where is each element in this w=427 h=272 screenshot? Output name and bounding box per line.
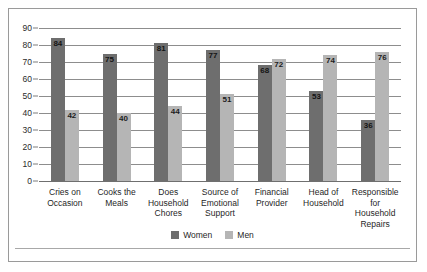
bar-men[interactable]: 44	[168, 106, 182, 181]
bar-men[interactable]: 40	[117, 113, 131, 181]
y-axis-tick-mark	[33, 181, 38, 182]
legend-divider	[15, 248, 410, 249]
y-axis-tick-label: 30	[23, 126, 32, 135]
bar-group: 8144DoesHouseholdChores	[154, 28, 182, 181]
y-axis-tick-label: 20	[23, 143, 32, 152]
bar-value-label: 72	[272, 61, 286, 69]
chart-legend: WomenMen	[9, 231, 416, 240]
bar-group: 7540Cooks theMeals	[103, 28, 131, 181]
legend-swatch-men	[225, 231, 233, 239]
y-axis-tick-mark	[33, 164, 38, 165]
y-axis-tick-label: 40	[23, 109, 32, 118]
bar-group: 7751Source ofEmotionalSupport	[206, 28, 234, 181]
y-axis-tick-mark	[33, 79, 38, 80]
bar-value-label: 68	[258, 67, 272, 75]
x-axis-category-label: ResponsibleforHouseholdRepairs	[338, 187, 412, 229]
bar-value-label: 53	[309, 93, 323, 101]
bar-men[interactable]: 74	[323, 55, 337, 181]
y-axis-tick-label: 50	[23, 92, 32, 101]
y-axis-tick-mark	[33, 130, 38, 131]
bar-value-label: 76	[375, 54, 389, 62]
y-axis-tick-label: 70	[23, 58, 32, 67]
legend-label: Women	[183, 231, 212, 240]
bar-value-label: 42	[65, 112, 79, 120]
bar-value-label: 77	[206, 52, 220, 60]
bar-women[interactable]: 84	[51, 38, 65, 181]
bar-value-label: 40	[117, 115, 131, 123]
legend-entry-women[interactable]: Women	[171, 231, 212, 240]
y-axis-tick-label: 60	[23, 75, 32, 84]
y-axis-tick-mark	[33, 45, 38, 46]
bar-women[interactable]: 36	[361, 120, 375, 181]
plot-area: 90807060504030201008442Cries onOccasion7…	[39, 28, 401, 181]
bar-men[interactable]: 51	[220, 94, 234, 181]
bar-value-label: 44	[168, 108, 182, 116]
legend-label: Men	[237, 231, 254, 240]
bar-women[interactable]: 53	[309, 91, 323, 181]
y-axis-tick-mark	[33, 147, 38, 148]
y-axis-tick-mark	[33, 113, 38, 114]
bar-value-label: 51	[220, 96, 234, 104]
legend-entry-men[interactable]: Men	[225, 231, 254, 240]
bar-group: 6872FinancialProvider	[258, 28, 286, 181]
bar-women[interactable]: 77	[206, 50, 220, 181]
bar-group: 8442Cries onOccasion	[51, 28, 79, 181]
bar-value-label: 84	[51, 40, 65, 48]
bar-women[interactable]: 75	[103, 54, 117, 182]
y-axis-tick-label: 10	[23, 160, 32, 169]
bar-men[interactable]: 72	[272, 59, 286, 181]
bar-men[interactable]: 42	[65, 110, 79, 181]
gridline-0	[39, 181, 401, 182]
y-axis-tick-mark	[33, 62, 38, 63]
y-axis-tick-mark	[33, 96, 38, 97]
legend-swatch-women	[171, 231, 179, 239]
bar-women[interactable]: 81	[154, 43, 168, 181]
bar-value-label: 74	[323, 57, 337, 65]
y-axis-tick-label: 90	[23, 24, 32, 33]
bar-men[interactable]: 76	[375, 52, 389, 181]
y-axis-tick-mark	[33, 28, 38, 29]
bar-women[interactable]: 68	[258, 65, 272, 181]
bar-value-label: 75	[103, 56, 117, 64]
bar-group: 3676ResponsibleforHouseholdRepairs	[361, 28, 389, 181]
chart-container: 90807060504030201008442Cries onOccasion7…	[8, 8, 417, 262]
y-axis-tick-label: 80	[23, 41, 32, 50]
y-axis-tick-label: 0	[27, 177, 32, 186]
bar-value-label: 81	[154, 45, 168, 53]
bar-group: 5374Head ofHousehold	[309, 28, 337, 181]
bar-value-label: 36	[361, 122, 375, 130]
